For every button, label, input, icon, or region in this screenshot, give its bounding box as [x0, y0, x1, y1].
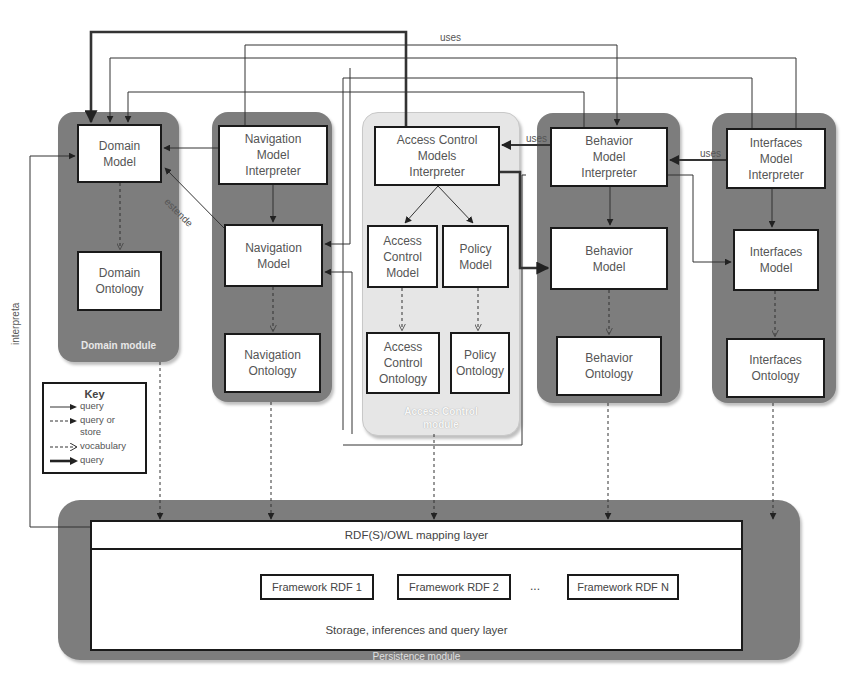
ac-ontology-box: Access Control Ontology	[366, 332, 440, 394]
open-dashed-arrow-icon	[50, 443, 78, 451]
beh-ontology-box: Behavior Ontology	[556, 336, 662, 396]
framework-rdf-2: Framework RDF 2	[397, 574, 511, 600]
policy-model-box: Policy Model	[442, 225, 509, 288]
int-model-box: Interfaces Model	[733, 229, 819, 291]
framework-ellipsis: ...	[530, 579, 540, 593]
beh-model-box: Behavior Model	[550, 227, 668, 290]
mapping-layer: RDF(S)/OWL mapping layer	[92, 522, 741, 550]
domain-model-box: Domain Model	[77, 124, 162, 183]
ac-interpreter-box: Access Control Models Interpreter	[374, 126, 500, 186]
framework-rdf-1: Framework RDF 1	[260, 574, 374, 600]
key-row-query-store: query or store	[44, 414, 145, 440]
legend-key: Key query query or store vocabulary quer…	[42, 382, 147, 474]
thin-arrow-icon	[50, 403, 78, 411]
persistence-module-label: Persistence module	[90, 651, 743, 662]
int-ontology-box: Interfaces Ontology	[726, 338, 825, 398]
nav-interpreter-box: Navigation Model Interpreter	[218, 125, 328, 185]
domain-ontology-box: Domain Ontology	[77, 251, 162, 311]
dashed-arrow-icon	[50, 417, 78, 425]
ac-model-box: Access Control Model	[367, 225, 438, 288]
storage-layer: Storage, inferences and query layer	[90, 624, 743, 636]
access-control-module-label: Access Control module	[363, 405, 519, 431]
nav-model-box: Navigation Model	[224, 224, 323, 287]
nav-ontology-box: Navigation Ontology	[224, 333, 321, 393]
thick-arrow-icon	[50, 457, 78, 465]
key-row-query: query	[44, 400, 145, 414]
key-title: Key	[44, 388, 145, 400]
beh-interpreter-box: Behavior Model Interpreter	[550, 127, 668, 187]
uses-behavior-label: uses	[526, 133, 547, 144]
uses-interface-label: uses	[700, 148, 721, 159]
framework-rdf-n: Framework RDF N	[567, 574, 679, 600]
int-interpreter-box: Interfaces Model Interpreter	[726, 128, 826, 189]
interpreta-label: interpreta	[10, 303, 21, 345]
key-row-vocabulary: vocabulary	[44, 440, 145, 454]
key-row-thick-query: query	[44, 454, 145, 468]
domain-module-label: Domain module	[58, 340, 179, 351]
uses-top-label: uses	[440, 32, 461, 43]
policy-ontology-box: Policy Ontology	[450, 332, 510, 394]
